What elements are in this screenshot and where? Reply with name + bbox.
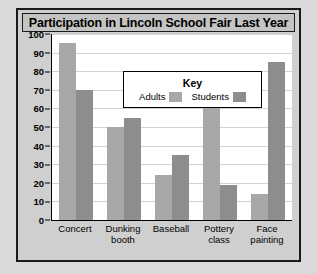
y-axis-tick-value: 80 — [33, 66, 44, 77]
bar-students-pottery-class — [220, 185, 237, 220]
y-axis-tick-value: 40 — [33, 140, 44, 151]
y-axis-tick-70: 70 — [22, 84, 50, 95]
bar-group-dunking-booth — [107, 34, 141, 220]
x-axis-label-dunking-booth: Dunkingbooth — [99, 224, 147, 245]
bar-students-dunking-booth — [124, 118, 141, 220]
x-axis-category-labels: ConcertDunkingboothBaseballPotteryclassF… — [51, 224, 291, 245]
bar-group-face-painting — [251, 34, 285, 220]
x-axis-label-concert: Concert — [51, 224, 99, 245]
y-axis-tick-80: 80 — [22, 66, 50, 77]
y-axis-tick-mark — [45, 146, 50, 147]
y-axis-tick-mark — [45, 201, 50, 202]
y-axis-tick-0: 0 — [22, 215, 50, 226]
y-axis-tick-mark — [45, 71, 50, 72]
y-axis-tick-mark — [45, 90, 50, 91]
y-axis-tick-mark — [45, 164, 50, 165]
y-axis-tick-value: 90 — [33, 47, 44, 58]
y-axis-tick-value: 0 — [39, 215, 44, 226]
plot-wrapper: 0102030405060708090100 ConcertDunkingboo… — [22, 34, 295, 258]
y-axis-tick-value: 50 — [33, 122, 44, 133]
y-axis-tick-100: 100 — [22, 29, 50, 40]
chart-panel: Participation in Lincoln School Fair Las… — [16, 8, 301, 262]
y-axis-tick-mark — [45, 220, 50, 221]
bar-students-baseball — [172, 155, 189, 220]
bar-group-baseball — [155, 34, 189, 220]
page-title: Participation in Lincoln School Fair Las… — [29, 16, 288, 30]
y-axis-tick-40: 40 — [22, 140, 50, 151]
chart-legend: Key AdultsStudents — [123, 71, 262, 108]
x-axis-label-baseball: Baseball — [147, 224, 195, 245]
bar-group-concert — [59, 34, 93, 220]
chart-title-banner: Participation in Lincoln School Fair Las… — [22, 13, 295, 32]
y-axis-tick-90: 90 — [22, 47, 50, 58]
y-axis-tick-30: 30 — [22, 159, 50, 170]
bars-layer — [52, 34, 292, 220]
legend-title: Key — [183, 77, 202, 89]
y-axis-tick-value: 30 — [33, 159, 44, 170]
bar-adults-pottery-class — [203, 101, 220, 220]
y-axis-tick-60: 60 — [22, 103, 50, 114]
legend-entries: AdultsStudents — [139, 91, 246, 102]
y-axis-tick-labels: 0102030405060708090100 — [22, 34, 50, 220]
y-axis-tick-mark — [45, 34, 50, 35]
bar-students-face-painting — [268, 62, 285, 220]
x-axis-label-face-painting: Facepainting — [243, 224, 291, 245]
bar-adults-face-painting — [251, 194, 268, 220]
y-axis-tick-10: 10 — [22, 196, 50, 207]
y-axis-tick-20: 20 — [22, 177, 50, 188]
legend-swatch-adults — [169, 92, 182, 102]
bar-group-pottery-class — [203, 34, 237, 220]
bar-adults-baseball — [155, 175, 172, 220]
y-axis-tick-mark — [45, 53, 50, 54]
y-axis-tick-value: 60 — [33, 103, 44, 114]
y-axis-tick-mark — [45, 108, 50, 109]
legend-entry-adults: Adults — [139, 91, 182, 102]
x-axis-label-pottery-class: Potteryclass — [195, 224, 243, 245]
bar-adults-dunking-booth — [107, 127, 124, 220]
y-axis-tick-value: 100 — [28, 29, 44, 40]
plot-area — [51, 34, 292, 221]
bar-students-concert — [76, 90, 93, 220]
legend-label-students: Students — [191, 91, 229, 102]
y-axis-tick-value: 10 — [33, 196, 44, 207]
y-axis-tick-value: 20 — [33, 177, 44, 188]
y-axis-tick-mark — [45, 183, 50, 184]
legend-swatch-students — [233, 92, 246, 102]
y-axis-tick-mark — [45, 127, 50, 128]
y-axis-tick-50: 50 — [22, 122, 50, 133]
legend-entry-students: Students — [191, 91, 246, 102]
bar-adults-concert — [59, 43, 76, 220]
y-axis-tick-value: 70 — [33, 84, 44, 95]
legend-label-adults: Adults — [139, 91, 165, 102]
